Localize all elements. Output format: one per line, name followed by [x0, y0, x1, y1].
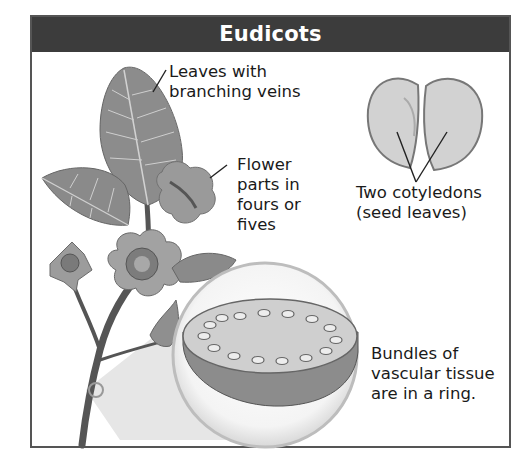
flower-small: [50, 242, 92, 292]
label-flower-parts: Flower parts in fours or fives: [237, 155, 301, 235]
seed-cotyledons: [368, 79, 482, 170]
flower-upper: [157, 162, 215, 223]
label-vascular-bundles: Bundles of vascular tissue are in a ring…: [371, 344, 495, 404]
label-cotyledons: Two cotyledons (seed leaves): [356, 183, 482, 223]
stem-cross-section-magnifier: [173, 263, 358, 447]
leaf-left: [42, 168, 130, 226]
flower-main: [108, 230, 181, 296]
label-leaves: Leaves with branching veins: [169, 62, 301, 102]
